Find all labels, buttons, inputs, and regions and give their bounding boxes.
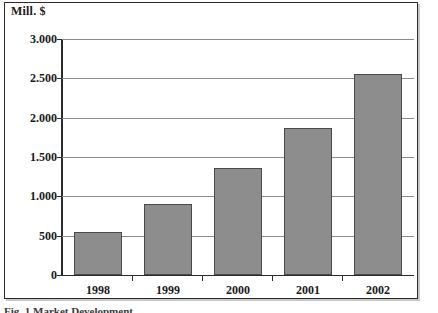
- x-tick-mark-2: [202, 276, 203, 281]
- x-tick-mark-4: [342, 276, 343, 281]
- y-tick-label-500: 500: [39, 229, 57, 244]
- y-tick-label-1500: 1.500: [30, 150, 57, 165]
- figure-caption: Fig. 1 Market Development: [4, 305, 434, 313]
- bar-1998[interactable]: [74, 232, 122, 275]
- y-tick-label-2500: 2.500: [30, 71, 57, 86]
- x-category-label-2000: 2000: [226, 283, 250, 298]
- x-tick-mark-3: [272, 276, 273, 281]
- x-category-label-1998: 1998: [86, 283, 110, 298]
- bar-2000[interactable]: [214, 168, 262, 275]
- y-tick-label-3000: 3.000: [30, 32, 57, 47]
- gridline-3000: [62, 39, 414, 40]
- x-category-label-2001: 2001: [296, 283, 320, 298]
- y-axis-tick-labels: 3.000 2.500 2.000 1.500 1.000 500 0: [0, 0, 57, 313]
- x-axis-baseline: [62, 275, 414, 276]
- bar-1999[interactable]: [144, 204, 192, 275]
- bar-2002[interactable]: [354, 74, 402, 275]
- plot-area: [62, 39, 414, 275]
- x-category-label-1999: 1999: [156, 283, 180, 298]
- figure-container: Mill. $ 3.000 2.500 2.000 1.500 1.000 50…: [0, 0, 438, 313]
- x-category-label-2002: 2002: [366, 283, 390, 298]
- bar-2001[interactable]: [284, 128, 332, 275]
- x-tick-mark-1: [132, 276, 133, 281]
- y-tick-label-1000: 1.000: [30, 189, 57, 204]
- y-tick-label-2000: 2.000: [30, 111, 57, 126]
